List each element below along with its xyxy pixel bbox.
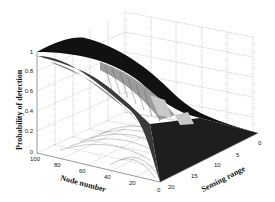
svg-text:5: 5 [236, 152, 240, 158]
svg-text:60: 60 [79, 168, 86, 174]
surface-plot: 1 0.8 0.6 0.4 0.2 0 100 80 60 40 20 0 0 … [0, 0, 275, 202]
svg-text:0: 0 [258, 140, 262, 146]
svg-text:0: 0 [30, 149, 34, 155]
z-axis-label: Probability of detection [15, 69, 24, 150]
svg-text:20: 20 [168, 184, 175, 190]
svg-text:20: 20 [129, 180, 136, 186]
svg-text:0: 0 [157, 187, 161, 193]
back-wall-left [37, 12, 125, 153]
svg-text:0.6: 0.6 [25, 88, 34, 94]
z-axis-ticks: 1 0.8 0.6 0.4 0.2 0 [25, 49, 34, 155]
svg-text:40: 40 [104, 174, 111, 180]
svg-text:15: 15 [191, 173, 198, 179]
x-axis-label: Node number [59, 173, 107, 194]
svg-text:80: 80 [54, 162, 61, 168]
svg-text:0.8: 0.8 [25, 68, 34, 74]
svg-text:10: 10 [214, 162, 221, 168]
svg-text:100: 100 [30, 156, 41, 162]
svg-text:0.2: 0.2 [25, 128, 34, 134]
svg-text:1: 1 [30, 49, 34, 55]
y-axis-label: Sensing range [200, 164, 247, 194]
svg-text:0.4: 0.4 [25, 108, 34, 114]
